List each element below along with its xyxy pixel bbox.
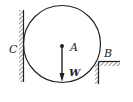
label-b: B <box>103 47 112 60</box>
weight-arrow-icon <box>60 46 65 82</box>
label-w: W <box>69 67 82 78</box>
wall-c <box>19 10 24 82</box>
label-a: A <box>69 41 78 54</box>
label-c: C <box>9 43 18 56</box>
ledge-b <box>95 62 120 85</box>
diagram-canvas: C A W B <box>0 0 133 102</box>
